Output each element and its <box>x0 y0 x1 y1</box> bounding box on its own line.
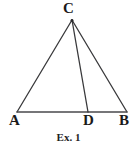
geometry-figure: C A D B Ex. 1 <box>0 0 137 151</box>
apex-vertex-dot <box>71 19 74 22</box>
vertex-label-b: B <box>119 113 129 128</box>
vertex-label-c: C <box>63 1 74 16</box>
segment-side-AC <box>17 20 72 112</box>
vertex-label-d: D <box>83 113 94 128</box>
triangle-diagram <box>0 0 137 151</box>
triangle-strokes <box>17 19 127 112</box>
figure-caption: Ex. 1 <box>0 131 137 144</box>
vertex-label-a: A <box>9 113 20 128</box>
